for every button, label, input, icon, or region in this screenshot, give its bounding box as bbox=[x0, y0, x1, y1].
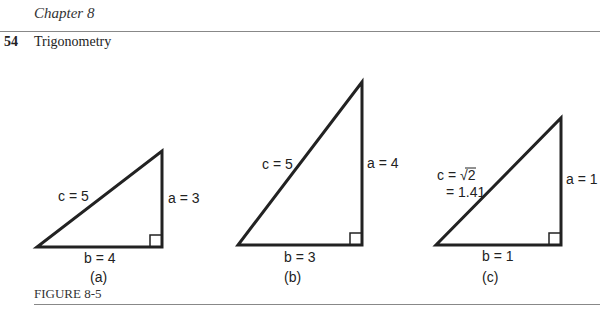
side-b-label: b = 1 bbox=[482, 248, 514, 264]
side-a-label: a = 3 bbox=[168, 190, 200, 206]
right-angle-marker bbox=[350, 233, 362, 245]
side-b-label: b = 3 bbox=[284, 249, 316, 265]
triangle-b: c = 5 a = 4 b = 3 bbox=[238, 82, 399, 265]
panel-label-c: (c) bbox=[482, 269, 498, 285]
hypotenuse-label: c = 5 bbox=[262, 156, 293, 172]
hypotenuse-label: c = √2 bbox=[437, 167, 476, 183]
right-angle-marker bbox=[549, 233, 561, 245]
triangle-a: c = 5 a = 3 b = 4 bbox=[37, 151, 200, 266]
figure-triangles: c = 5 a = 3 b = 4 c = 5 a = 4 b = 3 c = … bbox=[0, 0, 611, 316]
side-b-label: b = 4 bbox=[84, 250, 116, 266]
panel-label-a: (a) bbox=[90, 269, 107, 285]
side-a-label: a = 1 bbox=[566, 171, 598, 187]
footer-rule bbox=[34, 304, 600, 305]
panel-label-b: (b) bbox=[284, 269, 301, 285]
hypotenuse-value-label: = 1.41 bbox=[446, 184, 486, 200]
hypotenuse-label: c = 5 bbox=[58, 188, 89, 204]
triangle-c: c = √2 = 1.41 a = 1 b = 1 bbox=[436, 118, 598, 264]
side-a-label: a = 4 bbox=[367, 155, 399, 171]
figure-caption: FIGURE 8-5 bbox=[34, 286, 102, 302]
right-angle-marker bbox=[150, 235, 162, 247]
